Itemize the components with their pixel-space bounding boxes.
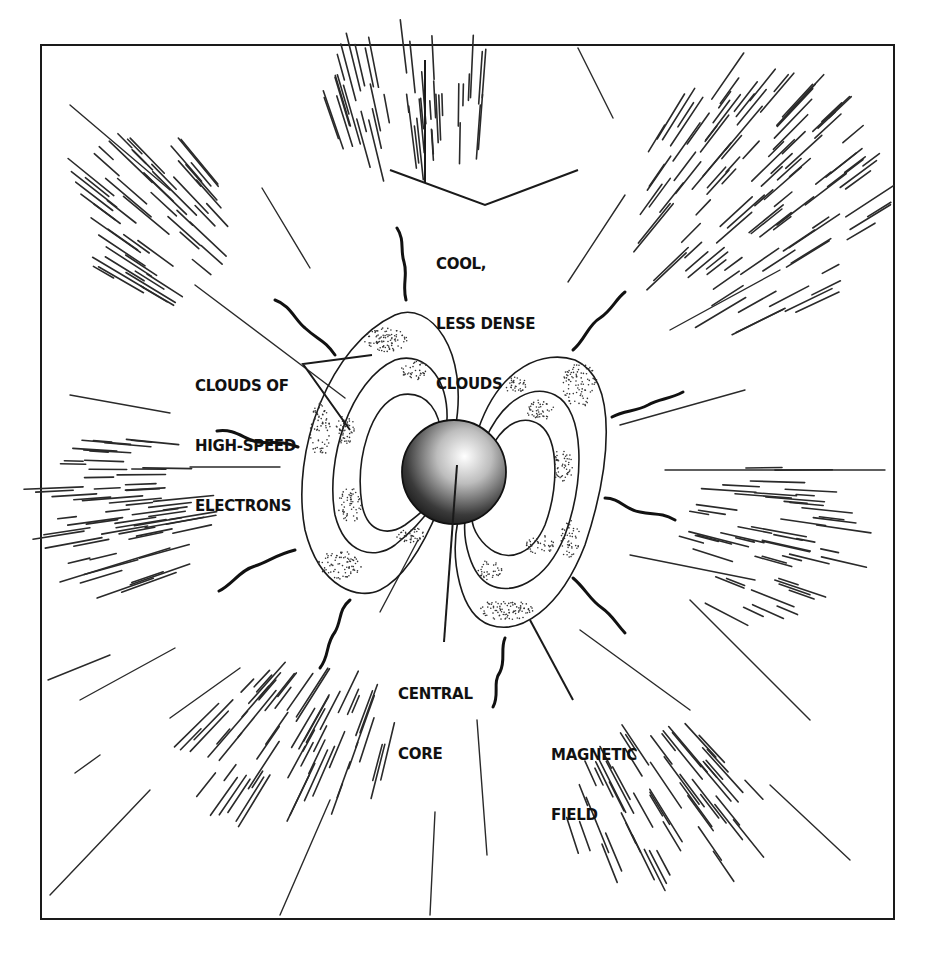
label-cool-clouds: COOL, LESS DENSE CLOUDS (436, 214, 535, 434)
diagram: COOL, LESS DENSE CLOUDS CLOUDS OF HIGH-S… (0, 0, 929, 971)
field-pointer (530, 620, 573, 700)
label-line: FIELD (551, 805, 637, 825)
label-line: CENTRAL (398, 684, 473, 704)
label-central-core: CENTRAL CORE (398, 644, 473, 804)
cool-clouds-bracket (390, 170, 578, 205)
label-line: COOL, (436, 254, 535, 274)
label-line: CLOUDS OF (195, 376, 296, 396)
label-line: HIGH-SPEED (195, 436, 296, 456)
label-line: CLOUDS (436, 374, 535, 394)
label-line: ELECTRONS (195, 496, 296, 516)
label-magnetic-field: MAGNETIC FIELD (551, 705, 637, 865)
label-line: LESS DENSE (436, 314, 535, 334)
label-electron-clouds: CLOUDS OF HIGH-SPEED ELECTRONS (195, 336, 296, 556)
diagram-artwork (0, 0, 929, 971)
label-line: MAGNETIC (551, 745, 637, 765)
label-line: CORE (398, 744, 473, 764)
